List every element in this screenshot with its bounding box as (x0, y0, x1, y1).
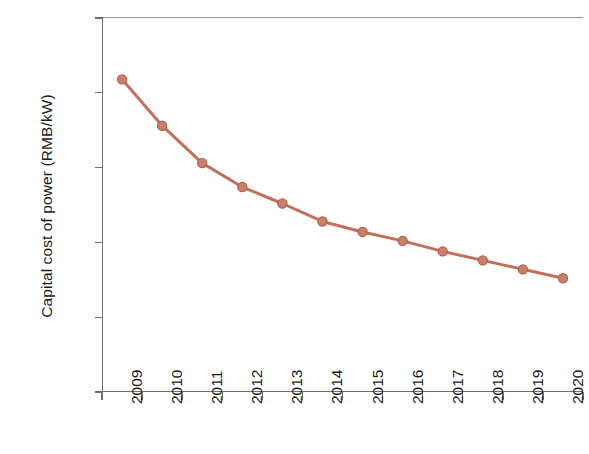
x-tick-label: 2013 (288, 370, 306, 404)
y-tick-mark (95, 167, 103, 168)
line-chart: Capital cost of power (RMB/kW) 650070007… (0, 0, 589, 454)
y-axis-title: Capital cost of power (RMB/kW) (38, 11, 56, 401)
y-tick-mark (95, 317, 103, 318)
y-tick-mark (95, 92, 103, 93)
x-tick-mark (101, 392, 102, 400)
y-tick-mark (95, 242, 103, 243)
x-tick-label: 2020 (569, 370, 587, 404)
x-tick-label: 2017 (449, 370, 467, 404)
x-tick-label: 2016 (409, 370, 427, 404)
plot-area (102, 18, 583, 392)
x-tick-label: 2012 (248, 370, 266, 404)
x-tick-label: 2019 (529, 370, 547, 404)
x-tick-label: 2015 (369, 370, 387, 404)
x-tick-label: 2011 (208, 371, 226, 404)
x-tick-label: 2009 (128, 370, 146, 404)
x-tick-label: 2014 (328, 370, 346, 404)
y-tick-mark (95, 17, 103, 18)
x-tick-label: 2018 (489, 370, 507, 404)
x-tick-label: 2010 (168, 370, 186, 404)
